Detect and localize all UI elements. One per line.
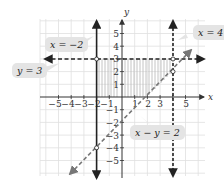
callout-x-eq-neg2: x = −2: [45, 37, 88, 52]
svg-text:−5: −5: [48, 99, 62, 109]
svg-text:2: 2: [113, 67, 119, 77]
svg-text:−1: −1: [106, 105, 119, 115]
svg-text:−5: −5: [106, 156, 120, 166]
x-axis-label: x: [208, 92, 213, 102]
vertex-4-3: [171, 57, 175, 61]
y-axis-label: y: [123, 7, 130, 17]
callout-x-minus-y-eq-2: x − y = 2: [130, 125, 185, 140]
svg-text:−2: −2: [87, 99, 100, 109]
svg-text:5: 5: [183, 99, 189, 109]
svg-text:−4: −4: [106, 143, 120, 153]
vertex-neg2-3: [95, 57, 99, 61]
graph-figure: −5 −4 −3 −2 −1 1 2 3 5 5 4 3 2 1 −1 −2 −…: [0, 0, 224, 181]
svg-text:4: 4: [113, 42, 119, 52]
coordinate-plane: −5 −4 −3 −2 −1 1 2 3 5 5 4 3 2 1 −1 −2 −…: [0, 0, 224, 181]
svg-text:5: 5: [113, 29, 119, 39]
svg-text:1: 1: [113, 80, 119, 90]
svg-text:−3: −3: [74, 99, 88, 109]
svg-text:3: 3: [157, 99, 163, 109]
callout-x-eq-4: x = 4: [193, 25, 224, 40]
callout-y-eq-3: y = 3: [12, 63, 47, 78]
vertex-neg2-neg4: [95, 146, 99, 150]
svg-text:2: 2: [145, 99, 151, 109]
vertex-4-2: [171, 70, 175, 74]
svg-text:−4: −4: [61, 99, 75, 109]
